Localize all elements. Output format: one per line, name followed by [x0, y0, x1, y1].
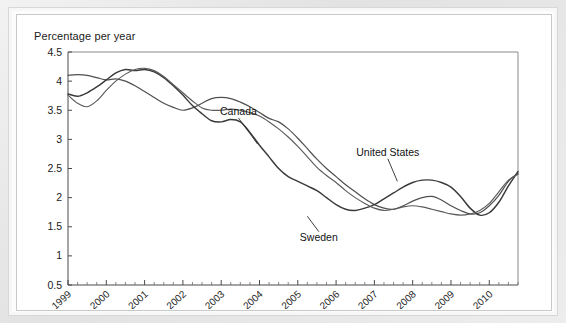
y-tick-label: 2 — [56, 191, 62, 203]
x-tick-label: 2009 — [432, 288, 456, 309]
plot-axes — [68, 52, 518, 285]
annotation-leader-united-states — [388, 159, 398, 182]
annotation-leader-sweden — [307, 216, 318, 231]
chart-figure: Percentage per year 4.543.532.521.510.51… — [16, 14, 550, 309]
series-line-united-states — [68, 69, 518, 215]
plot-frame — [68, 52, 518, 285]
annotation-leader-canada — [238, 118, 257, 144]
x-tick-label: 2000 — [88, 288, 112, 309]
x-tick-label: 2002 — [164, 288, 188, 309]
series-line-sweden — [68, 68, 518, 215]
series-line-canada — [68, 75, 518, 214]
x-tick-label: 2008 — [394, 288, 418, 309]
x-tick-label: 1999 — [49, 288, 73, 309]
y-tick-label: 4 — [56, 75, 62, 87]
y-tick-label: 1.5 — [47, 220, 62, 232]
annotation-label-united-states: United States — [356, 146, 419, 158]
x-tick-label: 2005 — [279, 288, 303, 309]
y-tick-label: 3 — [56, 133, 62, 145]
annotation-label-sweden: Sweden — [300, 231, 338, 243]
x-tick-label: 2003 — [203, 288, 227, 309]
y-tick-label: 4.5 — [47, 46, 62, 58]
x-tick-label: 2001 — [126, 288, 150, 309]
x-tick-label: 2006 — [318, 288, 342, 309]
screenshot-root: Percentage per year 4.543.532.521.510.51… — [0, 0, 566, 323]
x-tick-label: 2004 — [241, 288, 265, 309]
y-tick-label: 0.5 — [47, 279, 62, 291]
x-tick-label: 2010 — [471, 288, 495, 309]
y-tick-label: 3.5 — [47, 104, 62, 116]
annotation-label-canada: Canada — [220, 105, 257, 117]
line-chart-plot: 4.543.532.521.510.5199920002001200220032… — [16, 14, 550, 309]
x-tick-label: 2007 — [356, 288, 380, 309]
y-tick-label: 2.5 — [47, 162, 62, 174]
y-tick-label: 1 — [56, 249, 62, 261]
